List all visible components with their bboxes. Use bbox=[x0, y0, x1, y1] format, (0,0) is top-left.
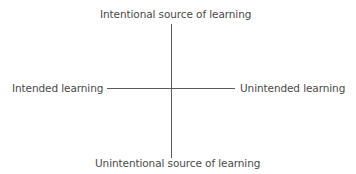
vertical-axis-line bbox=[171, 24, 172, 158]
bottom-axis-label: Unintentional source of learning bbox=[95, 157, 260, 169]
horizontal-axis-line bbox=[107, 88, 235, 89]
left-axis-label: Intended learning bbox=[12, 82, 103, 94]
top-axis-label: Intentional source of learning bbox=[100, 8, 251, 20]
right-axis-label: Unintended learning bbox=[240, 82, 345, 94]
